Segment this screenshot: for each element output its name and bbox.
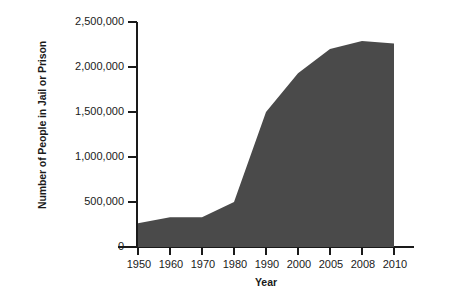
area-series-polygon	[138, 41, 394, 247]
area-chart: Number of People in Jail or Prison 0500,…	[0, 0, 460, 305]
x-tick-mark	[393, 247, 395, 255]
y-tick-label: 1,000,000	[14, 151, 124, 162]
y-tick-label: 0	[14, 241, 124, 252]
y-tick-mark	[128, 246, 137, 248]
x-tick-mark	[233, 247, 235, 255]
x-axis-title: Year	[138, 276, 394, 288]
x-tick-mark	[137, 247, 139, 255]
x-tick-mark	[361, 247, 363, 255]
y-tick-mark	[128, 66, 137, 68]
y-tick-mark	[128, 156, 137, 158]
x-tick-mark	[201, 247, 203, 255]
y-tick-mark	[128, 111, 137, 113]
y-tick-label: 1,500,000	[14, 106, 124, 117]
x-tick-label: 2010	[365, 258, 425, 270]
y-tick-mark	[128, 21, 137, 23]
y-axis-title: Number of People in Jail or Prison	[32, 0, 52, 250]
y-tick-label: 2,000,000	[14, 61, 124, 72]
y-tick-label: 2,500,000	[14, 16, 124, 27]
y-axis-line	[136, 22, 138, 248]
x-tick-mark	[169, 247, 171, 255]
x-tick-mark	[265, 247, 267, 255]
y-tick-label: 500,000	[14, 196, 124, 207]
y-tick-mark	[128, 201, 137, 203]
x-tick-mark	[297, 247, 299, 255]
x-tick-mark	[329, 247, 331, 255]
